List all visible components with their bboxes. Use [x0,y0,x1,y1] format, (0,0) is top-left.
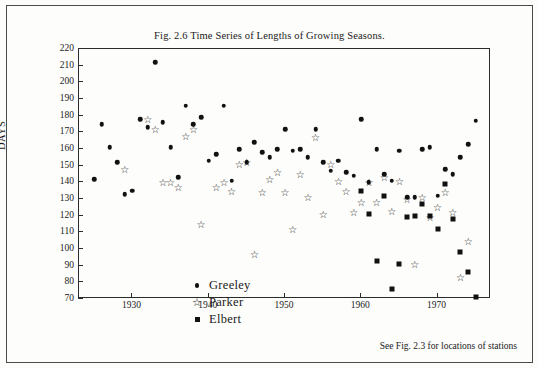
data-point-greeley [313,127,318,132]
y-tick-label: 200 [60,76,74,86]
data-point-greeley [153,60,158,65]
data-point-elbert [420,202,425,207]
data-point-elbert [359,188,364,193]
x-axis-tick-labels: 19301940195019601970 [78,300,490,316]
data-point-greeley [374,147,379,152]
data-point-parker: ☆ [311,133,320,142]
data-point-greeley [397,148,402,153]
data-point-greeley [359,117,364,122]
data-point-parker: ☆ [197,220,206,229]
y-tick-label: 190 [60,93,74,103]
x-tick-mark [284,293,285,298]
y-tick-label: 220 [60,43,74,53]
data-point-elbert [366,212,371,217]
y-tick-label: 150 [60,160,74,170]
data-point-greeley [176,175,181,180]
data-point-greeley [466,142,471,147]
data-point-greeley [390,178,395,183]
figure-title: Fig. 2.6 Time Series of Lengths of Growi… [0,30,539,41]
data-point-greeley [100,122,105,127]
data-point-greeley [351,173,356,178]
data-point-greeley [458,155,463,160]
data-point-greeley [115,160,120,165]
data-point-parker: ☆ [326,160,335,169]
y-tick-label: 90 [65,260,75,270]
data-point-elbert [450,217,455,222]
data-point-greeley [161,120,166,125]
plot-frame: ☆☆☆☆☆☆☆☆☆☆☆☆☆☆☆☆☆☆☆☆☆☆☆☆☆☆☆☆☆☆☆☆☆☆☆☆☆☆☆☆… [78,48,490,298]
data-point-greeley [344,170,349,175]
data-point-parker: ☆ [174,183,183,192]
data-point-parker: ☆ [448,208,457,217]
data-point-parker: ☆ [418,193,427,202]
data-point-greeley [252,140,257,145]
scatter-plot-area: ☆☆☆☆☆☆☆☆☆☆☆☆☆☆☆☆☆☆☆☆☆☆☆☆☆☆☆☆☆☆☆☆☆☆☆☆☆☆☆☆… [79,49,489,297]
data-point-greeley [428,145,433,150]
data-point-elbert [443,182,448,187]
data-point-greeley [321,160,326,165]
data-point-elbert [374,258,379,263]
data-point-greeley [260,150,265,155]
data-point-greeley [420,147,425,152]
x-tick-mark [437,293,438,298]
data-point-greeley [107,145,112,150]
x-tick-label: 1960 [351,300,370,310]
x-tick-mark [360,293,361,298]
data-point-greeley [138,117,143,122]
data-point-parker: ☆ [273,168,282,177]
data-point-greeley [214,152,219,157]
data-point-parker: ☆ [303,193,312,202]
data-point-greeley [145,125,150,130]
data-point-greeley [451,172,456,177]
data-point-elbert [435,227,440,232]
data-point-elbert [405,215,410,220]
data-point-greeley [443,167,448,172]
data-point-elbert [389,287,394,292]
data-point-parker: ☆ [395,176,404,185]
legend-item-greeley: Greeley [189,277,251,294]
data-point-parker: ☆ [242,158,251,167]
data-point-greeley [130,188,135,193]
data-point-greeley [275,147,280,152]
y-tick-label: 110 [60,226,74,236]
data-point-parker: ☆ [410,260,419,269]
data-point-greeley [283,127,288,132]
data-point-parker: ☆ [258,188,267,197]
data-point-greeley [435,193,440,198]
data-point-parker: ☆ [296,170,305,179]
data-point-parker: ☆ [403,195,412,204]
y-tick-label: 130 [60,193,74,203]
x-tick-label: 1970 [427,300,446,310]
data-point-parker: ☆ [189,125,198,134]
data-point-parker: ☆ [464,236,473,245]
data-point-greeley [168,145,173,150]
data-point-greeley [473,118,478,123]
data-point-elbert [412,213,417,218]
figure-note: See Fig. 2.3 for locations of stations [380,341,517,351]
figure-container: Fig. 2.6 Time Series of Lengths of Growi… [0,0,539,369]
data-point-parker: ☆ [227,186,236,195]
data-point-parker: ☆ [349,208,358,217]
y-axis-tick-labels: 7080901001101201301401501601701801902002… [28,48,74,298]
y-tick-label: 140 [60,176,74,186]
y-tick-label: 160 [60,143,74,153]
data-point-greeley [199,115,204,120]
y-tick-label: 180 [60,110,74,120]
x-tick-label: 1930 [122,300,141,310]
y-tick-label: 170 [60,126,74,136]
x-tick-label: 1950 [275,300,294,310]
x-tick-mark [208,293,209,298]
data-point-parker: ☆ [342,186,351,195]
data-point-elbert [382,193,387,198]
data-point-parker: ☆ [364,178,373,187]
data-point-elbert [397,262,402,267]
data-point-parker: ☆ [433,203,442,212]
filled-square-icon [189,317,205,322]
data-point-elbert [458,250,463,255]
data-point-greeley [306,155,311,160]
data-point-parker: ☆ [281,188,290,197]
data-point-parker: ☆ [143,115,152,124]
data-point-greeley [267,155,272,160]
data-point-parker: ☆ [387,206,396,215]
y-tick-label: 70 [65,293,75,303]
